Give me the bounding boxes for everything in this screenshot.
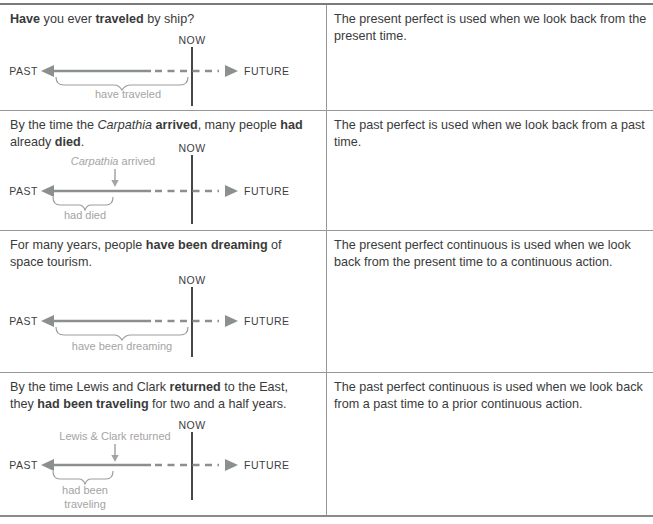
- future-arrowhead-icon: [225, 459, 238, 471]
- event-label-rest: arrived: [119, 155, 156, 167]
- sentence-part: arrived: [156, 118, 198, 132]
- sentence-part: By the time the: [10, 118, 98, 132]
- past-label: PAST: [9, 459, 38, 471]
- now-label: NOW: [178, 34, 205, 46]
- example-sentence: Have you ever traveled by ship?: [0, 5, 326, 28]
- example-sentence: For many years, people have been dreamin…: [0, 231, 326, 271]
- brace-label-line1: had been: [62, 484, 108, 496]
- future-label: FUTURE: [244, 459, 290, 471]
- future-label: FUTURE: [244, 65, 290, 77]
- sentence-part: , many people: [198, 118, 281, 132]
- sentence-part: you ever: [40, 12, 95, 26]
- table-row: For many years, people have been dreamin…: [0, 231, 653, 373]
- past-arrowhead-icon: [41, 315, 54, 327]
- sentence-part: had: [280, 118, 302, 132]
- event-label-italic: Carpathia: [71, 155, 119, 167]
- sentence-part: for two and a half years.: [149, 397, 287, 411]
- brace-label: have traveled: [95, 88, 161, 100]
- sentence-part: already: [10, 135, 55, 149]
- timeline-diagram: NOW PAST FUTURE have traveled: [0, 32, 300, 108]
- explanation-cell: The past perfect continuous is used when…: [327, 373, 653, 515]
- explanation-cell: The past perfect is used when we look ba…: [327, 111, 653, 230]
- past-label: PAST: [9, 315, 38, 327]
- timeline-diagram: NOW PAST FUTURE have been dreaming: [0, 268, 300, 360]
- sentence-part: Have: [10, 12, 40, 26]
- example-cell: By the time the Carpathia arrived, many …: [0, 111, 327, 230]
- event-arrowhead-icon: [111, 455, 118, 462]
- future-label: FUTURE: [244, 185, 290, 197]
- now-label: NOW: [178, 142, 205, 154]
- sentence-part: For many years, people: [10, 238, 146, 252]
- sentence-part: .: [81, 135, 85, 149]
- explanation-cell: The present perfect is used when we look…: [327, 5, 653, 110]
- past-arrowhead-icon: [41, 185, 54, 197]
- sentence-part: died: [55, 135, 81, 149]
- grammar-textbook-page: Have you ever traveled by ship? NOW PAST…: [0, 0, 653, 524]
- example-cell: By the time Lewis and Clark returned to …: [0, 373, 327, 515]
- event-arrowhead-icon: [111, 180, 118, 187]
- sentence-part: By the time Lewis and Clark: [10, 380, 170, 394]
- future-label: FUTURE: [244, 315, 290, 327]
- event-label: Lewis & Clark returned: [59, 430, 170, 442]
- now-label: NOW: [178, 419, 205, 431]
- table-row: By the time the Carpathia arrived, many …: [0, 111, 653, 231]
- example-cell: For many years, people have been dreamin…: [0, 231, 327, 372]
- past-label: PAST: [9, 65, 38, 77]
- brace-label: had died: [64, 209, 106, 221]
- example-cell: Have you ever traveled by ship? NOW PAST…: [0, 5, 327, 110]
- sentence-part: have been dreaming: [146, 238, 268, 252]
- future-arrowhead-icon: [225, 65, 238, 77]
- explanation-text: The present perfect continuous is used w…: [334, 238, 631, 269]
- explanation-cell: The present perfect continuous is used w…: [327, 231, 653, 372]
- sentence-part: Carpathia: [98, 118, 153, 132]
- event-label: Carpathia arrived: [71, 155, 155, 167]
- table-row: Have you ever traveled by ship? NOW PAST…: [0, 5, 653, 111]
- example-sentence: By the time Lewis and Clark returned to …: [0, 373, 326, 413]
- explanation-text: The present perfect is used when we look…: [334, 12, 646, 43]
- now-label: NOW: [178, 274, 205, 286]
- past-label: PAST: [9, 185, 38, 197]
- timeline-diagram: NOW Carpathia arrived PAST FUTURE had di…: [0, 140, 300, 226]
- past-arrowhead-icon: [41, 459, 54, 471]
- sentence-part: traveled: [95, 12, 143, 26]
- duration-brace: [53, 471, 113, 484]
- sentence-part: by ship?: [144, 12, 194, 26]
- brace-label: have been dreaming: [72, 340, 172, 352]
- future-arrowhead-icon: [225, 185, 238, 197]
- explanation-text: The past perfect continuous is used when…: [334, 380, 643, 411]
- past-arrowhead-icon: [41, 65, 54, 77]
- brace-label-line2: traveling: [64, 498, 106, 510]
- explanation-text: The past perfect is used when we look ba…: [334, 118, 645, 149]
- sentence-part: returned: [170, 380, 221, 394]
- timeline-diagram: NOW Lewis & Clark returned PAST FUTURE h…: [0, 413, 300, 512]
- future-arrowhead-icon: [225, 315, 238, 327]
- duration-brace: [56, 327, 188, 340]
- tense-explanation-table: Have you ever traveled by ship? NOW PAST…: [0, 3, 653, 517]
- table-row: By the time Lewis and Clark returned to …: [0, 373, 653, 515]
- sentence-part: had been traveling: [37, 397, 148, 411]
